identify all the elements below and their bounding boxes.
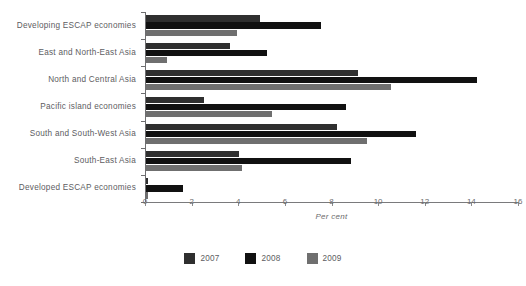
category-label: South-East Asia <box>0 156 136 166</box>
bar <box>146 22 321 28</box>
bar <box>146 124 337 130</box>
x-axis-tick-label: 8 <box>329 197 333 206</box>
legend-swatch-icon <box>307 253 318 264</box>
bar <box>146 151 239 157</box>
bar <box>146 70 358 76</box>
bar <box>146 158 351 164</box>
category-label: Developing ESCAP economies <box>0 21 136 31</box>
bar <box>146 77 477 83</box>
y-axis-tick <box>141 121 145 122</box>
legend-swatch-icon <box>184 253 195 264</box>
y-axis-tick <box>141 39 145 40</box>
category-label: Pacific island economies <box>0 102 136 112</box>
bar <box>146 43 230 49</box>
category-label: North and Central Asia <box>0 75 136 85</box>
legend-label: 2009 <box>323 254 342 263</box>
plot-area <box>145 12 518 202</box>
x-axis-tick-label: 6 <box>283 197 287 206</box>
bar <box>146 15 260 21</box>
bar <box>146 111 272 117</box>
bar <box>146 131 416 137</box>
category-label: South and South-West Asia <box>0 129 136 139</box>
x-axis-title: Per cent <box>145 212 518 221</box>
legend-item[interactable]: 2007 <box>184 253 219 264</box>
x-axis-tick-label: 12 <box>420 197 429 206</box>
x-axis-tick-label: 10 <box>374 197 383 206</box>
chart-legend: 200720082009 <box>0 253 526 264</box>
bar <box>146 50 267 56</box>
bar <box>146 30 237 36</box>
y-axis-tick <box>141 148 145 149</box>
bar-chart: Developing ESCAP economiesEast and North… <box>0 0 526 286</box>
bar <box>146 57 167 63</box>
bar <box>146 84 391 90</box>
y-axis-tick <box>141 66 145 67</box>
x-axis-tick-label: 16 <box>514 197 523 206</box>
x-axis-tick-label: 0 <box>143 197 147 206</box>
bar <box>146 138 367 144</box>
legend-item[interactable]: 2009 <box>307 253 342 264</box>
legend-swatch-icon <box>245 253 256 264</box>
category-label: Developed ESCAP economies <box>0 183 136 193</box>
y-axis-tick <box>141 12 145 13</box>
x-axis-tick-label: 14 <box>467 197 476 206</box>
bar <box>146 185 183 191</box>
category-label: East and North-East Asia <box>0 48 136 58</box>
x-axis-tick-label: 4 <box>236 197 240 206</box>
legend-label: 2008 <box>261 254 280 263</box>
legend-item[interactable]: 2008 <box>245 253 280 264</box>
bar <box>146 97 204 103</box>
bar <box>146 165 242 171</box>
legend-label: 2007 <box>200 254 219 263</box>
bar <box>146 104 346 110</box>
bar <box>146 178 148 184</box>
category-axis-labels: Developing ESCAP economiesEast and North… <box>0 12 140 202</box>
y-axis-tick <box>141 175 145 176</box>
y-axis-tick <box>141 93 145 94</box>
x-axis-tick-label: 2 <box>189 197 193 206</box>
